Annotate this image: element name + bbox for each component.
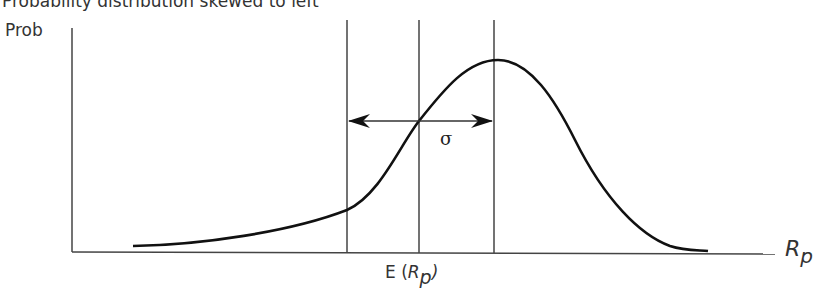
x-axis-label-main: R — [785, 236, 800, 261]
distribution-diagram — [0, 0, 820, 305]
mean-label-prefix: E ( — [385, 262, 408, 282]
mean-label-sub: p — [420, 266, 432, 288]
mean-label-suffix: ) — [432, 262, 439, 282]
x-axis — [72, 252, 775, 254]
sigma-label: σ — [440, 128, 452, 149]
mean-label: E (Rp) — [385, 262, 438, 288]
mean-label-var: R — [408, 262, 420, 282]
x-axis-label: Rp — [785, 236, 813, 268]
density-curve — [133, 60, 708, 251]
x-axis-label-sub: p — [800, 244, 813, 268]
